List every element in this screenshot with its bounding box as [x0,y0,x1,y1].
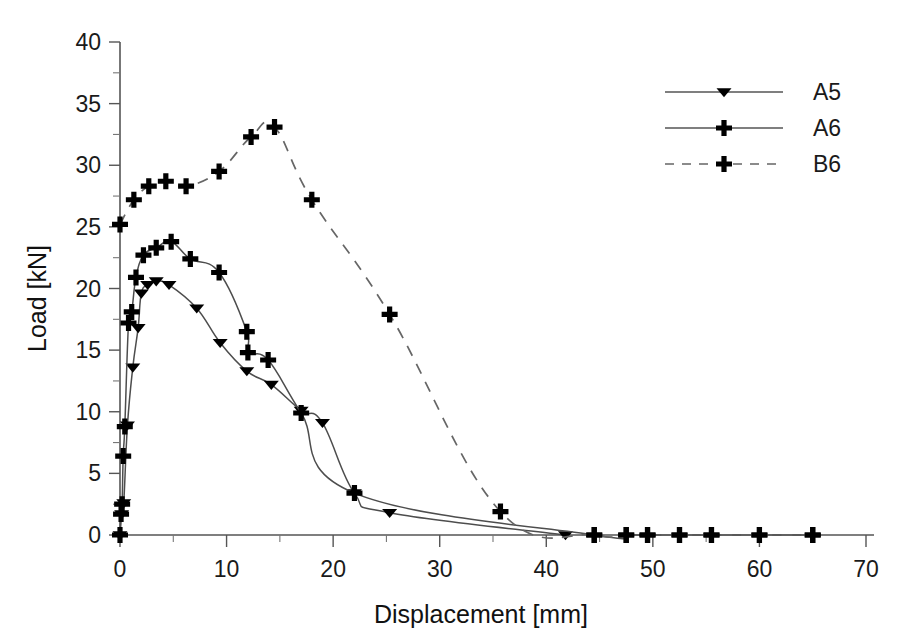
series-path-a5 [120,281,565,535]
marker-plus [672,527,688,543]
y-tick-label: 15 [75,337,101,363]
marker-plus [126,192,142,208]
x-tick-label: 30 [427,556,453,582]
series-a5 [113,277,573,540]
marker-triangle-down [134,290,149,299]
legend-label: B6 [813,151,841,177]
marker-plus [267,119,283,135]
legend-item-a5[interactable]: A5 [665,79,841,105]
series-path-a6 [120,241,813,539]
marker-triangle-down [213,339,228,348]
marker-plus [141,178,157,194]
marker-plus [158,173,174,189]
marker-plus [240,345,256,361]
data-series [112,119,821,543]
legend-item-a6[interactable]: A6 [665,115,841,141]
y-tick-label: 0 [88,522,101,548]
x-tick-label: 70 [853,556,879,582]
marker-plus [239,324,255,340]
series-b6 [112,119,821,543]
chart-canvas: 0510152025303540010203040506070 A5A6B6 D… [0,0,912,643]
legend-item-b6[interactable]: B6 [665,151,841,177]
marker-plus [112,527,128,543]
x-tick-label: 50 [640,556,666,582]
marker-plus [618,527,634,543]
marker-plus [382,306,398,322]
marker-plus [117,419,133,435]
x-tick-label: 0 [114,556,127,582]
y-tick-label: 25 [75,214,101,240]
y-tick-label: 30 [75,152,101,178]
y-tick-label: 20 [75,276,101,302]
marker-plus [716,120,732,136]
marker-plus [178,178,194,194]
marker-plus [115,448,131,464]
marker-plus [346,485,362,501]
y-tick-label: 5 [88,460,101,486]
marker-plus [716,156,732,172]
x-axis-title: Displacement [mm] [374,600,588,628]
y-tick-label: 40 [75,29,101,55]
marker-plus [163,234,179,250]
marker-plus [805,527,821,543]
x-tick-label: 40 [533,556,559,582]
axis-titles: Displacement [mm]Load [kN] [23,245,588,628]
axis-ticks [109,42,866,547]
marker-plus [211,163,227,179]
marker-plus [112,216,128,232]
marker-triangle-down [315,419,330,428]
x-tick-label: 60 [747,556,773,582]
legend-label: A5 [813,79,841,105]
marker-plus [128,269,144,285]
y-tick-label: 10 [75,399,101,425]
axes [120,42,874,535]
load-displacement-chart: 0510152025303540010203040506070 A5A6B6 D… [0,0,912,643]
legend-label: A6 [813,115,841,141]
series-a6 [112,234,821,543]
series-path-b6 [120,122,813,538]
chart-legend: A5A6B6 [665,79,841,177]
y-axis-title: Load [kN] [23,245,51,352]
marker-plus [751,527,767,543]
x-tick-label: 10 [214,556,240,582]
x-tick-label: 20 [320,556,346,582]
marker-plus [304,192,320,208]
y-tick-label: 35 [75,91,101,117]
marker-triangle-down [189,304,204,313]
marker-plus [114,496,130,512]
